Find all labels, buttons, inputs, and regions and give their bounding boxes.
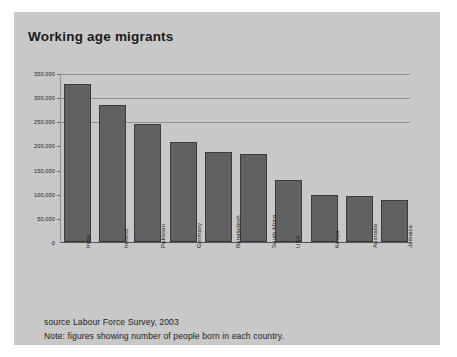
bar[interactable] — [134, 124, 161, 242]
y-tick-label: 0 — [52, 240, 55, 246]
bar-slot — [205, 74, 232, 242]
x-label-slot: Pakistan — [135, 244, 162, 296]
x-axis-labels: IndiaIrelandPakistanGermanyBangladeshSou… — [61, 244, 411, 296]
bar[interactable] — [205, 152, 232, 242]
x-axis-label: Australia — [372, 224, 378, 248]
x-axis-label: South Africa — [271, 214, 277, 248]
x-label-slot: South Africa — [241, 244, 268, 296]
y-tick-mark — [57, 98, 60, 99]
footer-source: source Labour Force Survey, 2003 — [44, 315, 424, 329]
x-axis-label: India — [84, 234, 90, 248]
bar-slot — [381, 74, 408, 242]
x-axis-label: Jamaica — [407, 225, 413, 248]
chart-title: Working age migrants — [28, 29, 174, 44]
x-axis-label: Pakistan — [160, 224, 166, 248]
bar-slot — [99, 74, 126, 242]
y-tick-mark — [57, 195, 60, 196]
x-axis-label: Kenya — [334, 230, 340, 248]
bar-slot — [240, 74, 267, 242]
y-tick-mark — [57, 219, 60, 220]
y-tick-mark — [57, 74, 60, 75]
bar[interactable] — [240, 154, 267, 242]
y-tick-label: 250,000 — [34, 119, 55, 125]
bar-slot — [346, 74, 373, 242]
y-tick-label: 150,000 — [34, 168, 55, 174]
y-tick-mark — [57, 171, 60, 172]
figure-panel: Working age migrants 350,000300,000250,0… — [14, 12, 440, 345]
bar-slot — [170, 74, 197, 242]
y-tick-mark — [57, 122, 60, 123]
footer: source Labour Force Survey, 2003 Note: f… — [44, 315, 424, 343]
x-label-slot: Kenya — [311, 244, 338, 296]
bar-slot — [134, 74, 161, 242]
x-label-slot: Ireland — [99, 244, 126, 296]
x-axis-label: Germany — [196, 223, 202, 248]
x-label-slot: Germany — [170, 244, 197, 296]
x-label-slot: India — [64, 244, 91, 296]
y-tick-label: 350,000 — [34, 71, 55, 77]
bar[interactable] — [170, 142, 197, 242]
bar[interactable] — [275, 180, 302, 242]
bar[interactable] — [346, 196, 373, 242]
footer-note: Note: figures showing number of people b… — [44, 329, 424, 343]
y-tick-label: 100,000 — [34, 192, 55, 198]
bar[interactable] — [64, 84, 91, 242]
bar-slot — [64, 74, 91, 242]
x-label-slot: Australia — [347, 244, 374, 296]
x-axis-label: USA — [296, 235, 302, 248]
bar[interactable] — [99, 105, 126, 242]
y-tick-label: 200,000 — [34, 143, 55, 149]
y-tick-label: 300,000 — [34, 95, 55, 101]
x-label-slot: Bangladesh — [205, 244, 232, 296]
x-label-slot: USA — [276, 244, 303, 296]
bar[interactable] — [381, 200, 408, 242]
bar-slot — [311, 74, 338, 242]
x-axis-label: Ireland — [122, 229, 128, 248]
bar-slot — [275, 74, 302, 242]
y-tick-mark — [57, 146, 60, 147]
y-tick-label: 50,000 — [37, 216, 55, 222]
x-label-slot: Jamaica — [382, 244, 409, 296]
